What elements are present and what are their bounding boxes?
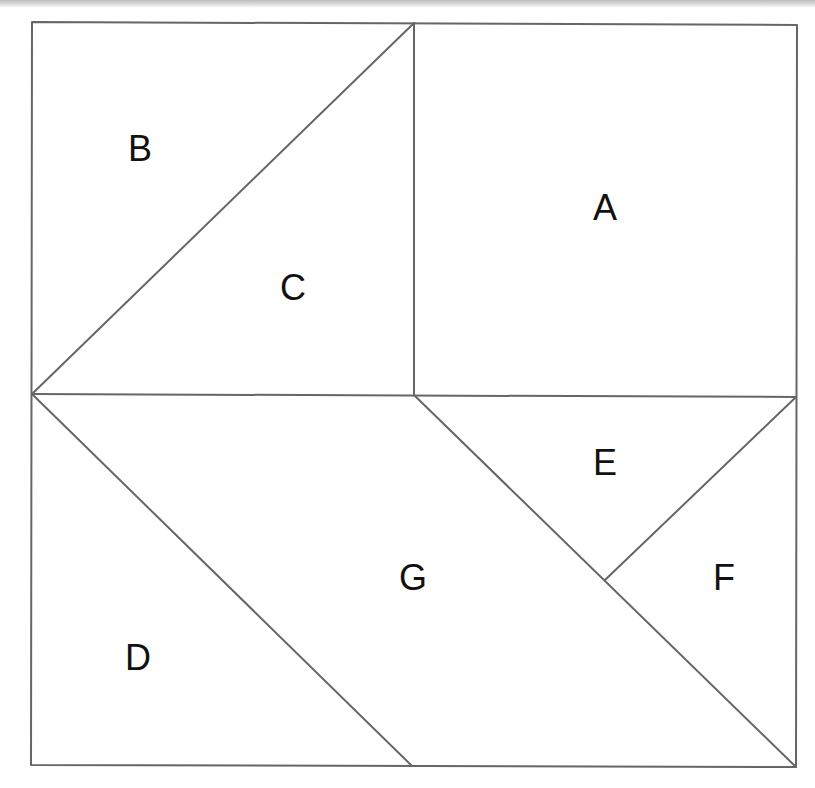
diagonal-b-c [32, 23, 414, 394]
piece-label-f: F [713, 560, 735, 596]
piece-label-e: E [593, 445, 617, 481]
piece-label-a: A [593, 190, 617, 226]
tangram-diagram [0, 0, 815, 788]
piece-label-d: D [125, 640, 151, 676]
piece-label-b: B [128, 131, 152, 167]
piece-label-g: G [399, 560, 427, 596]
piece-label-c: C [280, 270, 306, 306]
diagonal-d-g [32, 394, 411, 765]
diagonal-e-f [605, 397, 796, 580]
